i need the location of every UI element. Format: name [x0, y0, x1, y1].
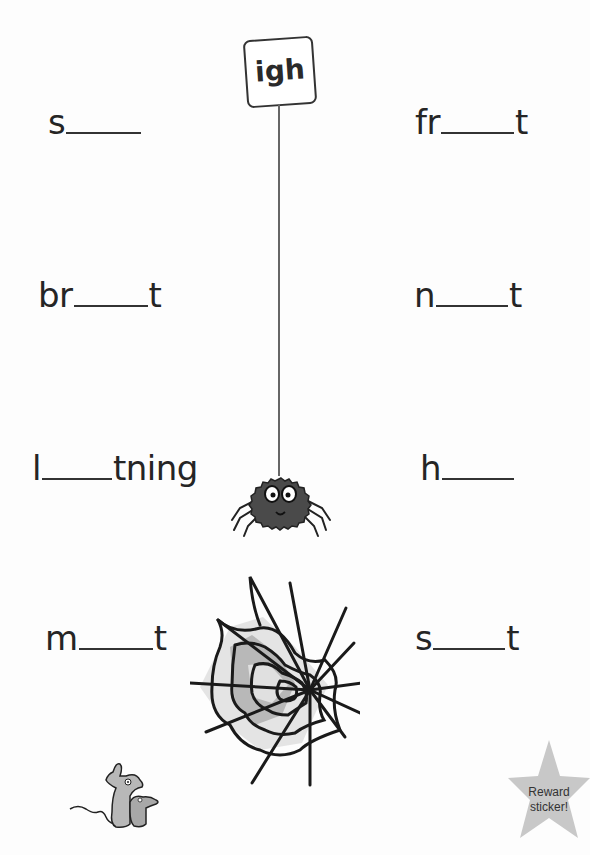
word-blank-5[interactable]: ltning	[32, 448, 198, 488]
answer-blank[interactable]	[442, 448, 514, 480]
word-prefix: s	[415, 618, 432, 658]
phonics-sign: igh	[243, 36, 318, 109]
word-blank-6[interactable]: h	[420, 448, 515, 488]
word-suffix: t	[154, 618, 167, 658]
word-blank-2[interactable]: frt	[415, 102, 528, 142]
mice-illustration	[68, 762, 178, 837]
answer-blank[interactable]	[79, 618, 153, 650]
word-prefix: h	[420, 448, 441, 488]
reward-sticker-label[interactable]: Reward sticker!	[519, 785, 579, 815]
reward-line-1: Reward	[519, 785, 579, 800]
answer-blank[interactable]	[66, 102, 141, 134]
spider-web-icon	[190, 565, 360, 790]
mouse-small	[130, 796, 158, 826]
answer-blank[interactable]	[441, 102, 514, 134]
answer-blank[interactable]	[74, 275, 148, 307]
spider-thread	[278, 104, 280, 476]
word-prefix: br	[38, 275, 73, 315]
answer-blank[interactable]	[42, 448, 112, 480]
word-prefix: m	[45, 618, 78, 658]
answer-blank[interactable]	[436, 275, 508, 307]
word-blank-1[interactable]: s	[48, 102, 142, 142]
answer-blank[interactable]	[433, 618, 505, 650]
word-blank-3[interactable]: brt	[38, 275, 161, 315]
word-blank-7[interactable]: mt	[45, 618, 166, 658]
word-suffix: tning	[113, 448, 198, 488]
word-suffix: t	[149, 275, 162, 315]
word-prefix: fr	[415, 102, 440, 142]
word-blank-4[interactable]: nt	[414, 275, 522, 315]
reward-line-2: sticker!	[519, 800, 579, 815]
word-prefix: l	[32, 448, 41, 488]
word-prefix: n	[414, 275, 435, 315]
spider-body	[249, 478, 311, 530]
phonics-sign-label: igh	[254, 52, 306, 88]
word-suffix: t	[506, 618, 519, 658]
word-suffix: t	[515, 102, 528, 142]
spider-icon	[226, 470, 336, 540]
word-blank-8[interactable]: st	[415, 618, 519, 658]
word-suffix: t	[509, 275, 522, 315]
word-prefix: s	[48, 102, 65, 142]
